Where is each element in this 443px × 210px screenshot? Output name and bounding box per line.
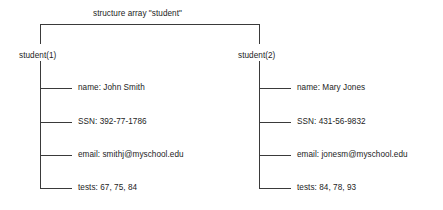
connector-lines [0, 0, 443, 210]
field-label-email: email: jonesm@myschool.edu [297, 151, 408, 159]
field-label-ssn: SSN: 431-56-9832 [297, 118, 366, 126]
field-label-tests: tests: 67, 75, 84 [78, 184, 137, 192]
structure-array-diagram: structure array "student" student(1) stu… [0, 0, 443, 210]
field-label-name: name: Mary Jones [297, 84, 365, 92]
node-label-student-2: student(2) [236, 51, 277, 61]
node-label-student-1: student(1) [17, 51, 58, 61]
field-label-email: email: smithj@myschool.edu [78, 151, 184, 159]
field-label-name: name: John Smith [78, 84, 145, 92]
diagram-title: structure array "student" [93, 10, 182, 18]
field-label-tests: tests: 84, 78, 93 [297, 184, 356, 192]
field-label-ssn: SSN: 392-77-1786 [78, 118, 147, 126]
